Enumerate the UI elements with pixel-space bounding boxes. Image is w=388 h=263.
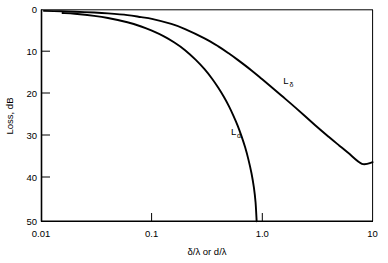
y-tick-label-30: 30 bbox=[26, 130, 37, 141]
y-axis-title: Loss, dB bbox=[4, 98, 15, 135]
x-tick-label-1.0: 1.0 bbox=[256, 228, 269, 239]
y-tick-label-20: 20 bbox=[26, 88, 37, 99]
curve-label-l-delta-subscript: δ bbox=[289, 81, 293, 88]
x-axis-title: δ/λ or d/λ bbox=[187, 246, 226, 257]
curve-label-l-d-subscript: d bbox=[237, 132, 241, 139]
y-tick-label-40: 40 bbox=[26, 172, 37, 183]
x-tick-label-10: 10 bbox=[367, 228, 378, 239]
loss-vs-wavelength-ratio-chart: 0 10 20 30 40 50 0.01 0.1 1.0 10 δ/λ or … bbox=[0, 0, 388, 263]
y-tick-label-10: 10 bbox=[26, 46, 37, 57]
x-tick-label-0.01: 0.01 bbox=[32, 228, 51, 239]
curve-label-l-d-text: L bbox=[231, 126, 236, 137]
chart-background bbox=[0, 0, 388, 263]
curve-label-l-delta-text: L bbox=[283, 75, 288, 86]
x-tick-label-0.1: 0.1 bbox=[145, 228, 158, 239]
y-tick-label-50: 50 bbox=[26, 216, 37, 227]
y-tick-label-0: 0 bbox=[32, 4, 37, 15]
chart-figure: 0 10 20 30 40 50 0.01 0.1 1.0 10 δ/λ or … bbox=[0, 0, 388, 263]
